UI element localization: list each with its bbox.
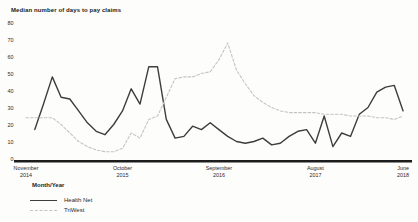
median-days-chart: Median number of days to pay claims 0102… [0,0,418,222]
y-axis-tick-label: 40 [8,88,14,94]
y-axis-tick-label: 20 [8,122,14,128]
x-axis-tick-month: June [397,165,409,171]
legend-item-health-net: Health Net [30,195,92,205]
y-axis-tick-label: 80 [8,20,14,26]
x-axis-tick-year: 2018 [397,172,409,178]
x-axis-tick-month: August [307,165,324,171]
series-line-health-net [35,67,403,147]
y-axis-tick-label: 50 [8,71,14,77]
x-axis-tick-year: 2014 [20,172,32,178]
x-axis-tick-year: 2016 [213,172,225,178]
health-net-line-sample-icon [30,200,57,201]
chart-legend: Month/Year Health Net TriWest [30,182,92,215]
x-axis-tick-month: September [206,165,233,171]
y-axis-tick-label: 0 [11,156,14,162]
x-axis-tick-month: November [14,165,39,171]
x-axis-tick-year: 2017 [309,172,321,178]
y-axis-tick-label: 70 [8,37,14,43]
y-axis-tick-label: 60 [8,54,14,60]
legend-item-triwest: TriWest [30,205,92,215]
y-axis-tick-label: 10 [8,139,14,145]
triwest-line-sample-icon [30,210,57,211]
y-axis-tick-label: 30 [8,105,14,111]
x-axis-tick-year: 2015 [117,172,129,178]
x-axis-label: Month/Year [32,182,92,188]
x-axis-tick-month: October [113,165,132,171]
legend-label-health-net: Health Net [64,197,92,203]
legend-label-triwest: TriWest [64,207,84,213]
line-chart-svg: 01020304050607080November2014October2015… [0,0,418,180]
